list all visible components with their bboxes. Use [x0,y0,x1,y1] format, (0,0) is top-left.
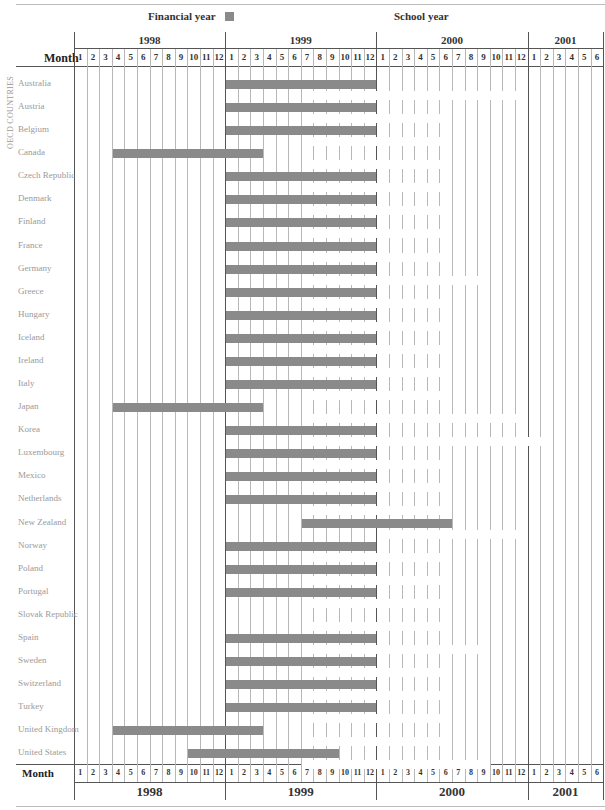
header-month-6: 6 [137,52,150,62]
footer-month-7: 7 [150,768,163,777]
country-label: Poland [18,563,43,573]
country-label: Austria [18,101,45,111]
month-gridline [414,49,415,764]
school-year-bar [302,506,452,515]
footer-month-6: 6 [288,768,301,777]
header-month-11: 11 [351,52,364,62]
financial-year-bar [113,149,263,158]
financial-year-bar [113,726,263,735]
header-month-6: 6 [439,52,452,62]
footer-month-12: 12 [515,768,528,777]
year-gridline [528,32,529,764]
school-year-bar [302,391,452,400]
school-year-bar [302,553,452,562]
school-year-bar [302,576,452,585]
header-year-2001: 2001 [528,34,604,46]
financial-year-bar [226,680,376,689]
month-gridline [427,49,428,764]
school-year-bar [302,276,490,285]
financial-year-bar [226,542,376,551]
school-year-bar [302,183,452,192]
school-year-bar [377,530,527,539]
header-month-12: 12 [364,52,377,62]
footer-month-3: 3 [402,768,415,777]
financial-year-bar [226,380,376,389]
header-month-3: 3 [99,52,112,62]
month-gridline [553,49,554,764]
financial-year-bar [226,357,376,366]
month-gridline [389,49,390,764]
financial-year-bar [226,657,376,666]
header-month-7: 7 [452,52,465,62]
country-label: United Kingdom [18,724,79,734]
country-label: Italy [18,378,35,388]
financial-year-bar [226,103,376,112]
header-year-1999: 1999 [225,34,376,46]
month-gridline [591,49,592,764]
header-month-1: 1 [225,52,238,62]
header-month-9: 9 [326,52,339,62]
footer-month-10: 10 [490,768,503,777]
country-label: Czech Republic [18,170,75,180]
financial-year-bar [226,449,376,458]
country-label: United States [18,747,66,757]
country-label: Sweden [18,655,47,665]
month-gridline [477,49,478,764]
financial-year-bar [226,172,376,181]
legend-school-year: School year [394,10,449,22]
school-year-bar [302,460,452,469]
footer-month-4: 4 [263,768,276,777]
footer-month-5: 5 [578,768,591,777]
footer-month-2: 2 [389,768,402,777]
school-year-bar [302,760,490,769]
header-year-2000: 2000 [376,34,527,46]
footer-month-2: 2 [540,768,553,777]
school-year-bar [302,91,528,100]
footer-month-8: 8 [162,768,175,777]
country-label: Australia [18,78,51,88]
footer-month-9: 9 [175,768,188,777]
bottom-rule [16,806,605,807]
footer-month-3: 3 [99,768,112,777]
footer-year-2000: 2000 [376,784,527,800]
footer-month-8: 8 [465,768,478,777]
country-label: Spain [18,632,39,642]
month-gridline [502,49,503,764]
header-month-6: 6 [591,52,604,62]
header-month-1: 1 [74,52,87,62]
footer-month-9: 9 [477,768,490,777]
header-month-12: 12 [515,52,528,62]
school-year-bar [302,622,452,631]
financial-year-bar [302,519,452,528]
footer-month-6: 6 [137,768,150,777]
header-month-7: 7 [150,52,163,62]
country-label: Belgium [18,124,49,134]
footer-month-11: 11 [351,768,364,777]
header-month-10: 10 [187,52,200,62]
header-month-10: 10 [339,52,352,62]
country-label: Korea [18,424,40,434]
country-label: Canada [18,147,45,157]
month-gridline [87,49,88,764]
footer-month-divider [74,782,603,783]
footer-month-2: 2 [87,768,100,777]
footer-month-5: 5 [427,768,440,777]
financial-year-bar [226,634,376,643]
country-label: New Zealand [18,517,66,527]
school-year-bar [302,253,452,262]
school-year-bar [302,483,452,492]
financial-year-bar [226,288,376,297]
month-gridline [540,49,541,764]
footer-month-7: 7 [301,768,314,777]
month-gridline [99,49,100,764]
header-month-8: 8 [162,52,175,62]
header-month-6: 6 [288,52,301,62]
country-label: Germany [18,263,52,273]
footer-month-1: 1 [376,768,389,777]
school-year-bar [302,229,452,238]
header-month-4: 4 [565,52,578,62]
footer-year-2001: 2001 [528,784,604,800]
top-rule [16,4,605,5]
month-gridline [439,49,440,764]
country-label: France [18,240,43,250]
